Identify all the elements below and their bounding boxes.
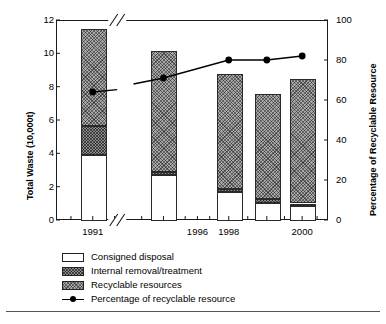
- legend-label: Internal removal/treatment: [91, 266, 202, 276]
- y-tick-label: 10: [34, 48, 54, 58]
- y2-tick-label: 60: [336, 95, 360, 105]
- bar-segment-consigned: [81, 155, 107, 221]
- bar-segment-recyclable: [255, 94, 281, 199]
- y2-tick-label: 0: [336, 215, 360, 225]
- x-tick-label: 2000: [282, 226, 322, 237]
- legend-line-marker-icon: [62, 295, 84, 304]
- y-tick-label: 8: [34, 82, 54, 92]
- bar-segment-consigned: [151, 175, 177, 221]
- chart-legend: Consigned disposalInternal removal/treat…: [62, 250, 235, 306]
- y2-tick-label: 80: [336, 55, 360, 65]
- legend-label: Recyclable resources: [91, 280, 182, 290]
- y-tick-label: 4: [34, 148, 54, 158]
- bar-segment-internal: [151, 172, 177, 175]
- bar-segment-recyclable: [151, 51, 177, 172]
- chart-figure: Total Waste (10,000t) Percentage of Recy…: [0, 0, 386, 324]
- y-axis-left-title-wrap: Total Waste (10,000t): [14, 40, 26, 200]
- y2-tick-label: 100: [336, 15, 360, 25]
- bar-segment-recyclable: [217, 74, 243, 190]
- y-tick-label: 0: [34, 215, 54, 225]
- bar-segment-internal: [290, 204, 316, 207]
- x-tick-label: 1998: [209, 226, 249, 237]
- bar-segment-consigned: [217, 192, 243, 221]
- y2-tick-label: 20: [336, 175, 360, 185]
- legend-swatch-icon: [62, 253, 84, 262]
- legend-item: Recyclable resources: [62, 278, 235, 292]
- y2-tick-label: 40: [336, 135, 360, 145]
- bar-segment-internal: [217, 189, 243, 192]
- legend-item: Percentage of recyclable resource: [62, 292, 235, 306]
- footer-divider: [6, 311, 380, 312]
- legend-label: Consigned disposal: [91, 252, 174, 262]
- bar-segment-recyclable: [290, 79, 316, 203]
- bar-segment-consigned: [255, 203, 281, 221]
- y-axis-right-title: Percentage of Recyclable Resource: [368, 63, 378, 216]
- bar-segment-internal: [255, 199, 281, 202]
- plot-area: [56, 20, 328, 220]
- bar-segment-recyclable: [81, 29, 107, 126]
- x-tick-label: 1991: [73, 226, 113, 237]
- legend-swatch-icon: [62, 281, 84, 290]
- y-tick-label: 6: [34, 115, 54, 125]
- y-tick-label: 12: [34, 15, 54, 25]
- bar-segment-internal: [81, 126, 107, 155]
- bar-segment-consigned: [290, 206, 316, 221]
- legend-item: Consigned disposal: [62, 250, 235, 264]
- legend-swatch-icon: [62, 267, 84, 276]
- legend-label: Percentage of recyclable resource: [91, 294, 235, 304]
- y-tick-label: 2: [34, 182, 54, 192]
- legend-item: Internal removal/treatment: [62, 264, 235, 278]
